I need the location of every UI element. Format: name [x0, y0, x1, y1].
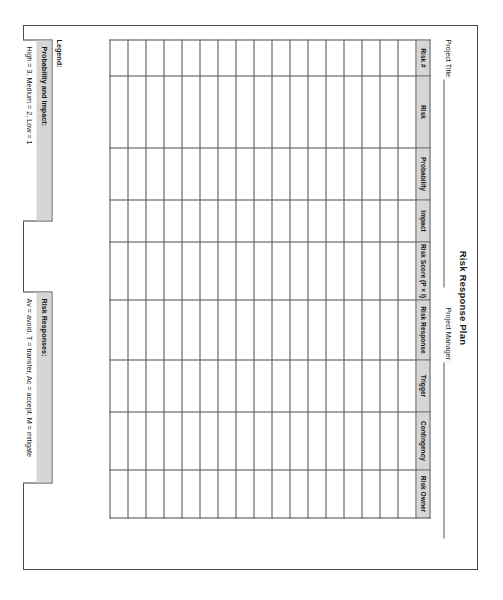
table-cell[interactable] — [398, 76, 416, 148]
table-cell[interactable] — [182, 360, 200, 412]
table-cell[interactable] — [218, 470, 236, 518]
table-cell[interactable] — [200, 200, 218, 242]
table-cell[interactable] — [380, 242, 398, 300]
table-cell[interactable] — [326, 300, 344, 360]
table-cell[interactable] — [218, 242, 236, 300]
table-cell[interactable] — [236, 300, 254, 360]
table-cell[interactable] — [326, 360, 344, 412]
table-cell[interactable] — [398, 242, 416, 300]
table-cell[interactable] — [200, 360, 218, 412]
table-cell[interactable] — [362, 148, 380, 200]
table-cell[interactable] — [110, 76, 128, 148]
table-cell[interactable] — [200, 242, 218, 300]
table-cell[interactable] — [218, 412, 236, 470]
table-cell[interactable] — [236, 200, 254, 242]
table-cell[interactable] — [326, 76, 344, 148]
table-cell[interactable] — [326, 148, 344, 200]
table-cell[interactable] — [398, 200, 416, 242]
table-cell[interactable] — [146, 148, 164, 200]
table-cell[interactable] — [254, 242, 272, 300]
table-cell[interactable] — [380, 40, 398, 76]
table-cell[interactable] — [272, 470, 290, 518]
table-cell[interactable] — [362, 300, 380, 360]
table-cell[interactable] — [398, 300, 416, 360]
table-cell[interactable] — [128, 40, 146, 76]
table-cell[interactable] — [164, 40, 182, 76]
table-cell[interactable] — [182, 242, 200, 300]
table-cell[interactable] — [254, 148, 272, 200]
table-cell[interactable] — [326, 200, 344, 242]
table-cell[interactable] — [344, 360, 362, 412]
table-cell[interactable] — [272, 360, 290, 412]
table-cell[interactable] — [290, 242, 308, 300]
table-cell[interactable] — [344, 300, 362, 360]
project-manager-input-rule[interactable] — [443, 362, 452, 538]
table-cell[interactable] — [308, 76, 326, 148]
table-cell[interactable] — [272, 300, 290, 360]
table-cell[interactable] — [236, 40, 254, 76]
table-cell[interactable] — [398, 148, 416, 200]
table-cell[interactable] — [380, 76, 398, 148]
table-cell[interactable] — [290, 360, 308, 412]
table-cell[interactable] — [200, 148, 218, 200]
table-cell[interactable] — [128, 242, 146, 300]
table-cell[interactable] — [290, 412, 308, 470]
table-cell[interactable] — [362, 40, 380, 76]
table-cell[interactable] — [164, 300, 182, 360]
table-cell[interactable] — [164, 76, 182, 148]
table-cell[interactable] — [344, 412, 362, 470]
table-cell[interactable] — [254, 76, 272, 148]
table-cell[interactable] — [254, 300, 272, 360]
table-cell[interactable] — [146, 242, 164, 300]
table-cell[interactable] — [164, 412, 182, 470]
table-cell[interactable] — [326, 242, 344, 300]
table-cell[interactable] — [218, 148, 236, 200]
table-cell[interactable] — [164, 200, 182, 242]
table-cell[interactable] — [272, 76, 290, 148]
table-cell[interactable] — [128, 412, 146, 470]
table-cell[interactable] — [164, 242, 182, 300]
table-cell[interactable] — [218, 300, 236, 360]
table-cell[interactable] — [380, 300, 398, 360]
table-cell[interactable] — [362, 360, 380, 412]
table-cell[interactable] — [290, 300, 308, 360]
table-cell[interactable] — [290, 148, 308, 200]
table-cell[interactable] — [308, 40, 326, 76]
table-cell[interactable] — [380, 148, 398, 200]
table-cell[interactable] — [326, 412, 344, 470]
table-cell[interactable] — [308, 412, 326, 470]
table-cell[interactable] — [362, 76, 380, 148]
table-cell[interactable] — [236, 148, 254, 200]
table-cell[interactable] — [128, 148, 146, 200]
table-cell[interactable] — [290, 200, 308, 242]
table-cell[interactable] — [146, 76, 164, 148]
table-cell[interactable] — [398, 470, 416, 518]
table-cell[interactable] — [236, 412, 254, 470]
table-cell[interactable] — [380, 412, 398, 470]
table-cell[interactable] — [344, 40, 362, 76]
table-cell[interactable] — [146, 40, 164, 76]
table-cell[interactable] — [380, 470, 398, 518]
table-cell[interactable] — [344, 200, 362, 242]
table-cell[interactable] — [290, 470, 308, 518]
table-cell[interactable] — [110, 412, 128, 470]
table-cell[interactable] — [344, 76, 362, 148]
table-cell[interactable] — [110, 360, 128, 412]
table-cell[interactable] — [200, 470, 218, 518]
table-cell[interactable] — [128, 470, 146, 518]
table-cell[interactable] — [308, 360, 326, 412]
table-cell[interactable] — [218, 40, 236, 76]
table-cell[interactable] — [128, 300, 146, 360]
table-cell[interactable] — [398, 40, 416, 76]
table-cell[interactable] — [110, 242, 128, 300]
table-cell[interactable] — [254, 40, 272, 76]
table-cell[interactable] — [272, 148, 290, 200]
table-cell[interactable] — [308, 470, 326, 518]
table-cell[interactable] — [362, 412, 380, 470]
table-cell[interactable] — [236, 76, 254, 148]
table-cell[interactable] — [254, 200, 272, 242]
table-cell[interactable] — [398, 360, 416, 412]
table-cell[interactable] — [344, 242, 362, 300]
table-cell[interactable] — [110, 470, 128, 518]
table-cell[interactable] — [200, 76, 218, 148]
